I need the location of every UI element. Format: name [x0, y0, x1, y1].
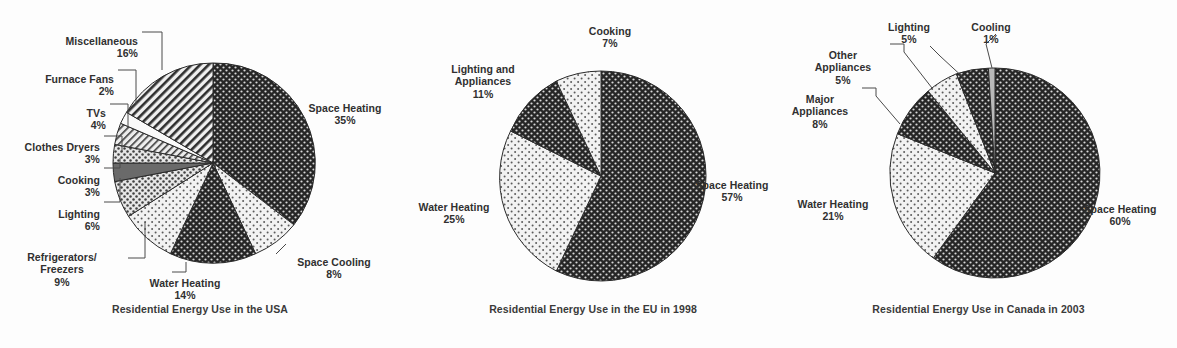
label-refrigerators-freezers: Refrigerators/ Freezers 9% [0, 238, 124, 301]
label-water-heating-name: Water Heating [798, 198, 869, 210]
label-water-heating: Water Heating 25% [398, 188, 510, 238]
label-cooling-pct: 1% [956, 33, 1026, 46]
label-space-heating-name: Space Heating [1083, 203, 1156, 215]
label-water-heating-pct: 25% [398, 213, 510, 226]
chart-title-eu: Residential Energy Use in the EU in 1998 [398, 303, 788, 315]
chart-title-usa: Residential Energy Use in the USA [0, 303, 400, 315]
label-space-cooling: Space Cooling 8% [278, 243, 390, 293]
label-miscellaneous-name: Miscellaneous [66, 35, 138, 47]
label-water-heating-name: Water Heating [419, 201, 490, 213]
chart-usa: Miscellaneous 16% Furnace Fans 2% TVs 4%… [0, 0, 400, 348]
label-space-heating-name: Space Heating [308, 102, 381, 114]
label-other-appliances-name: Other Appliances [815, 49, 872, 74]
label-cooking-name: Cooking [589, 25, 631, 37]
label-space-cooling-pct: 8% [278, 268, 390, 281]
label-cooking-pct: 7% [560, 37, 660, 50]
label-space-heating: Space Heating 35% [290, 89, 400, 139]
label-space-heating-pct: 60% [1065, 215, 1175, 228]
label-major-appliances-name: Major Appliances [792, 93, 849, 118]
label-lighting-and-appliances-pct: 11% [428, 88, 538, 101]
label-refrigerators-freezers-pct: 9% [0, 276, 124, 289]
label-furnace-fans-name: Furnace Fans [45, 73, 114, 85]
label-water-heating-pct: 21% [780, 210, 886, 223]
label-major-appliances: Major Appliances 8% [780, 80, 860, 143]
label-lighting-and-appliances-name: Lighting and Appliances [451, 63, 515, 88]
label-lighting-and-appliances: Lighting and Appliances 11% [428, 50, 538, 113]
label-space-heating-name: Space Heating [695, 179, 768, 191]
label-cooling: Cooling 1% [956, 8, 1026, 58]
chart-canada: Lighting 5% Cooling 1% Other Appliances … [780, 0, 1177, 348]
label-space-cooling-name: Space Cooling [297, 256, 371, 268]
label-miscellaneous-pct: 16% [10, 47, 138, 60]
label-cooking: Cooking 7% [560, 12, 660, 62]
chart-title-canada: Residential Energy Use in Canada in 2003 [780, 303, 1177, 315]
leader-miscellaneous [142, 32, 162, 70]
figure-canvas: Miscellaneous 16% Furnace Fans 2% TVs 4%… [0, 0, 1177, 348]
label-clothes-dryers-name: Clothes Dryers [25, 141, 100, 153]
label-cooling-name: Cooling [971, 21, 1010, 33]
chart-eu: Cooking 7% Lighting and Appliances 11% W… [398, 0, 788, 348]
label-water-heating-pct: 14% [130, 289, 240, 302]
label-space-heating: Space Heating 57% [676, 166, 788, 216]
label-refrigerators-freezers-name: Refrigerators/ Freezers [27, 251, 97, 276]
label-lighting-pct: 6% [0, 220, 100, 233]
label-lighting-name: Lighting [888, 21, 930, 33]
label-space-heating-pct: 35% [290, 114, 400, 127]
label-water-heating: Water Heating 21% [780, 185, 886, 235]
label-space-heating-pct: 57% [676, 191, 788, 204]
leader-furnace-fans [118, 70, 136, 104]
label-space-heating: Space Heating 60% [1065, 190, 1175, 240]
label-tvs-name: TVs [87, 107, 106, 119]
label-lighting-name: Lighting [58, 208, 100, 220]
label-major-appliances-pct: 8% [780, 118, 860, 131]
label-water-heating-name: Water Heating [150, 277, 221, 289]
label-cooking-name: Cooking [58, 174, 100, 186]
